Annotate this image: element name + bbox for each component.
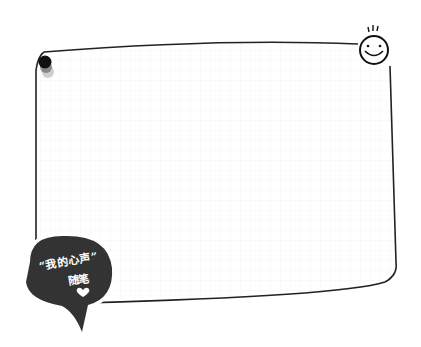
note-frame-illustration [0, 0, 421, 347]
smiley-face-icon [360, 25, 388, 64]
